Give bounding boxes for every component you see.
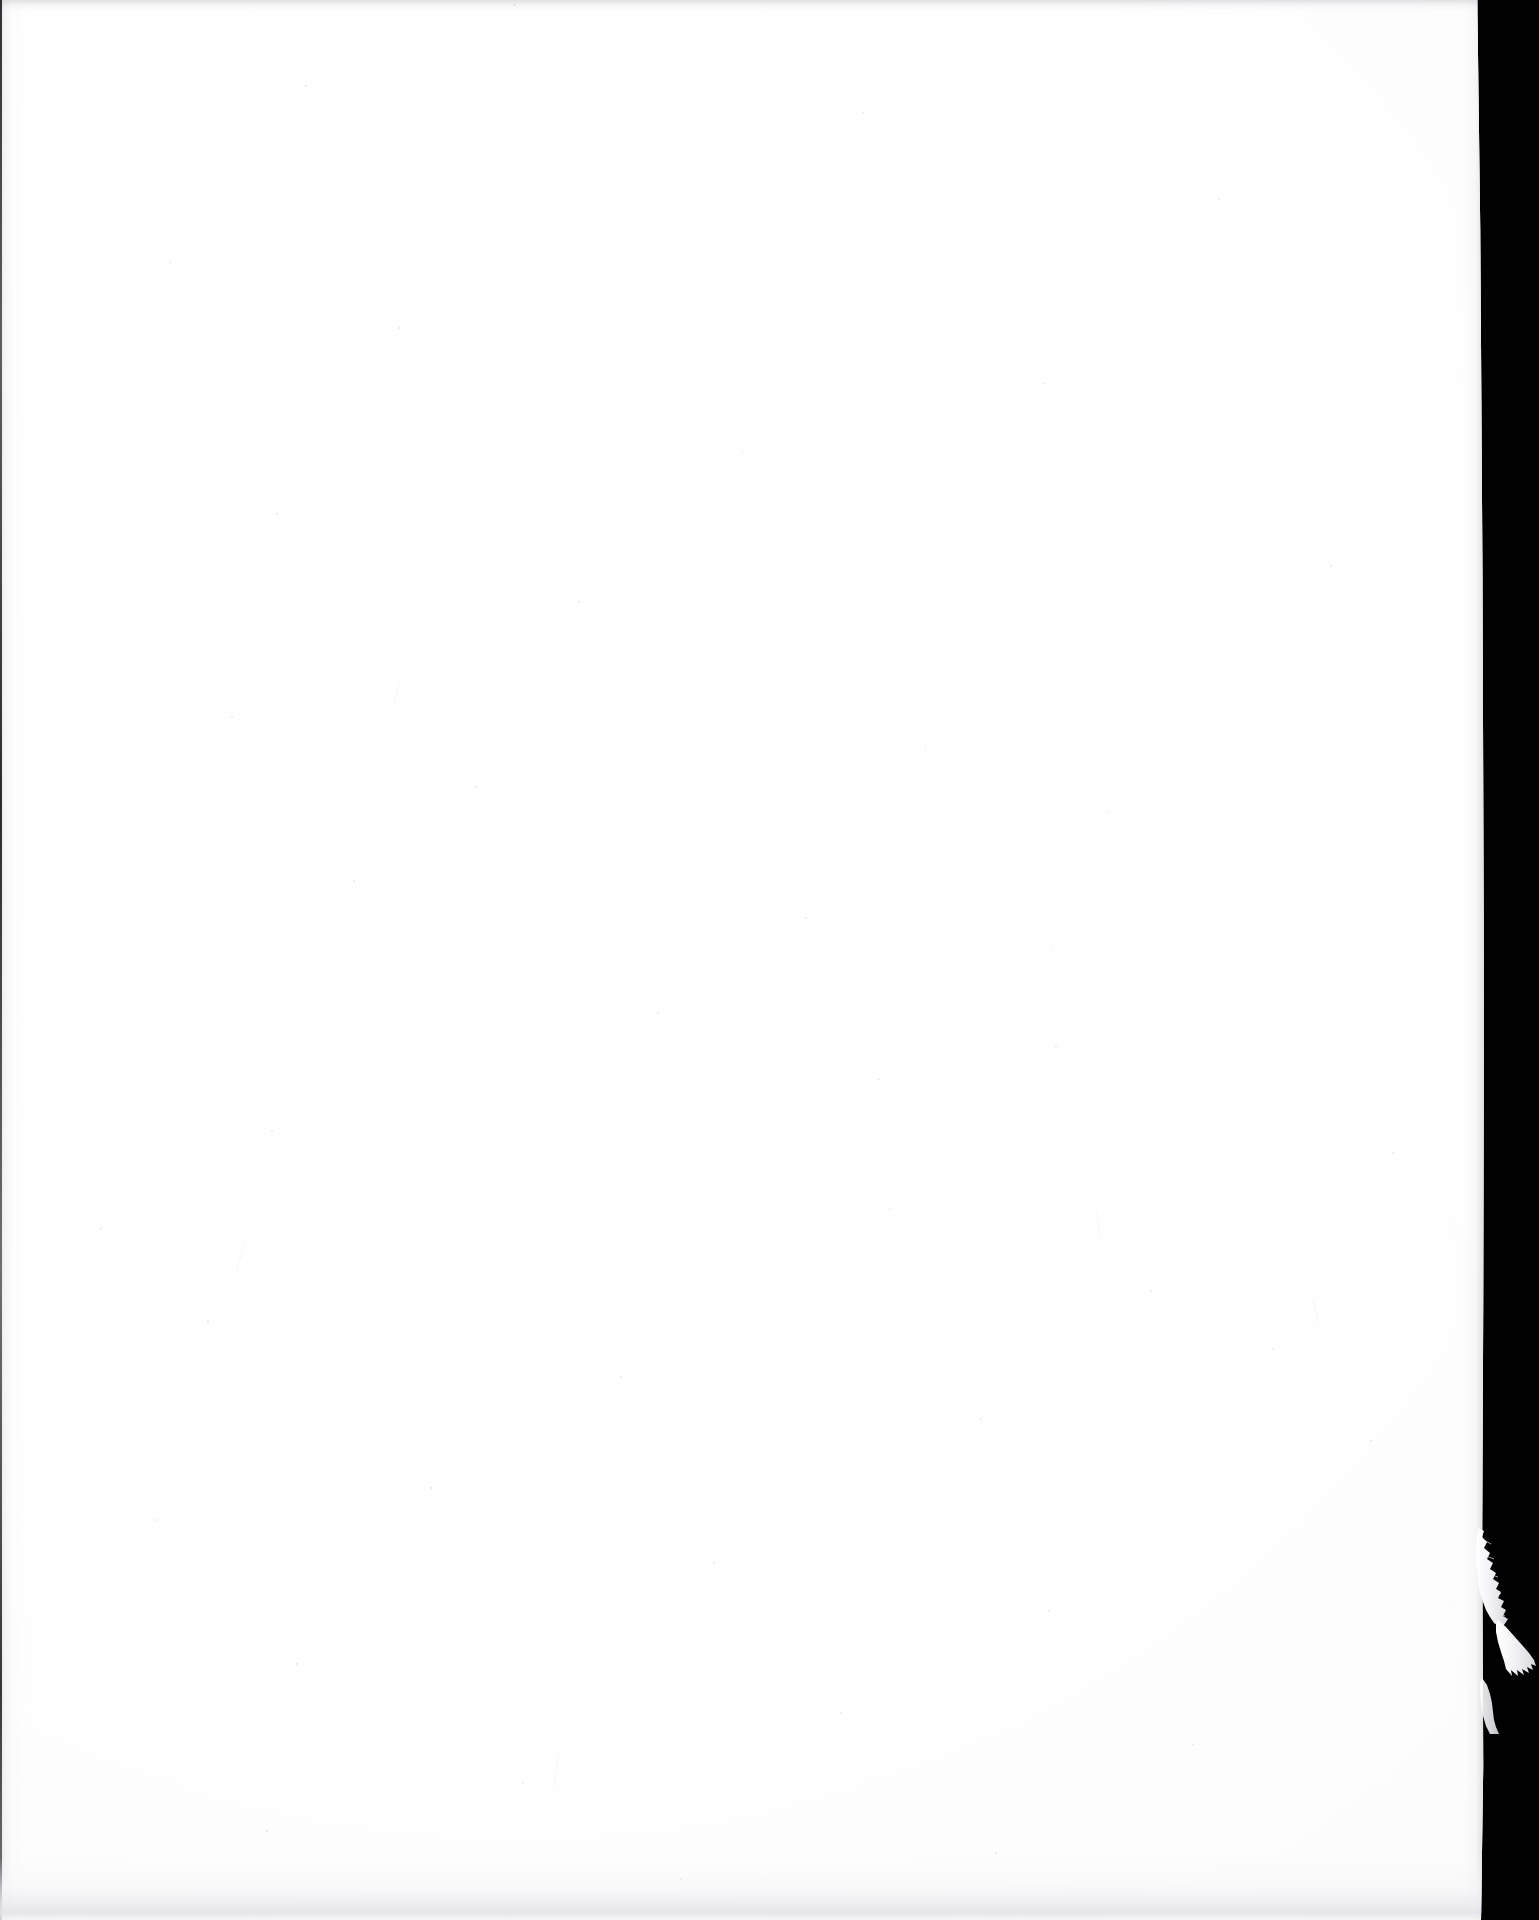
- bottom-edge-shadow: [0, 1858, 1484, 1920]
- top-edge-shadow: [0, 0, 1484, 14]
- paper-surface-tone: [0, 0, 1484, 1920]
- left-gutter-shadow: [0, 0, 26, 1920]
- paper-sheet: [0, 0, 1484, 1920]
- right-margin-shadow: [1450, 0, 1484, 1920]
- left-sheet-edge-line: [0, 0, 2, 1920]
- scanned-page-viewport: [0, 0, 1539, 1920]
